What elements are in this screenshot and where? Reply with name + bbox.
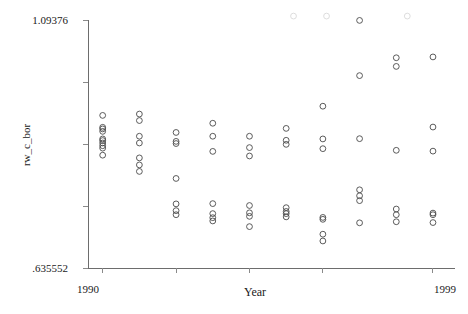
data-point bbox=[320, 146, 326, 152]
data-point bbox=[100, 152, 106, 158]
data-marker-layer bbox=[100, 18, 436, 244]
data-point bbox=[173, 212, 179, 218]
data-point bbox=[136, 140, 142, 146]
data-point bbox=[173, 201, 179, 207]
data-point bbox=[357, 136, 363, 142]
data-point bbox=[173, 176, 179, 182]
data-point bbox=[393, 55, 399, 61]
data-point bbox=[210, 120, 216, 126]
data-point bbox=[393, 212, 399, 218]
data-point bbox=[430, 124, 436, 130]
data-point bbox=[393, 64, 399, 70]
data-point bbox=[136, 162, 142, 168]
data-point bbox=[247, 153, 253, 159]
data-point bbox=[430, 148, 436, 154]
data-point bbox=[320, 103, 326, 109]
data-point bbox=[247, 213, 253, 219]
data-point bbox=[210, 201, 216, 207]
x-axis-max-tick-label: 1999 bbox=[434, 283, 457, 295]
data-point bbox=[247, 224, 253, 230]
data-point bbox=[357, 18, 363, 24]
data-point bbox=[100, 113, 106, 119]
clipped-data-point bbox=[324, 13, 330, 19]
x-axis-title: Year bbox=[244, 285, 266, 299]
data-point bbox=[393, 219, 399, 225]
data-point bbox=[136, 155, 142, 161]
data-point bbox=[210, 133, 216, 139]
clipped-data-point bbox=[291, 13, 297, 19]
x-axis-min-tick-label: 1990 bbox=[77, 283, 100, 295]
data-point bbox=[247, 145, 253, 151]
y-axis-min-tick-label: .635552 bbox=[32, 262, 68, 274]
data-point bbox=[320, 238, 326, 244]
data-point bbox=[283, 125, 289, 131]
plot-canvas: 1.09376 .635552 1990 1999 Year rw_c_bor bbox=[0, 0, 468, 314]
data-point bbox=[136, 111, 142, 117]
data-point bbox=[320, 136, 326, 142]
data-point bbox=[210, 148, 216, 154]
scatter-plot-figure: 1.09376 .635552 1990 1999 Year rw_c_bor bbox=[0, 0, 468, 314]
data-point bbox=[393, 147, 399, 153]
data-point bbox=[136, 133, 142, 139]
data-point bbox=[173, 130, 179, 136]
y-axis-title: rw_c_bor bbox=[20, 124, 32, 166]
y-axis-max-tick-label: 1.09376 bbox=[32, 14, 68, 26]
data-point bbox=[283, 141, 289, 147]
data-point bbox=[136, 118, 142, 124]
data-point bbox=[136, 169, 142, 175]
data-point bbox=[393, 206, 399, 212]
data-point bbox=[247, 133, 253, 139]
data-point bbox=[357, 187, 363, 193]
data-point bbox=[357, 220, 363, 226]
data-point bbox=[247, 203, 253, 209]
data-point bbox=[320, 231, 326, 237]
clipped-marker-layer bbox=[291, 13, 411, 19]
data-point bbox=[430, 54, 436, 60]
data-point bbox=[430, 220, 436, 226]
data-point bbox=[357, 73, 363, 79]
clipped-data-point bbox=[404, 13, 410, 19]
